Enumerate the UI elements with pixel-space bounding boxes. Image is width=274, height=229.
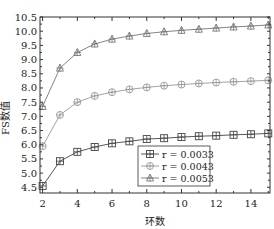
y-tick-label: 9.5: [21, 40, 37, 51]
y-tick-label: 7.5: [21, 97, 37, 108]
x-tick-label: 6: [109, 198, 115, 209]
x-axis-label: 环数: [145, 215, 165, 227]
legend-item: r = 0.0033: [141, 149, 214, 160]
y-tick-label: 5.5: [21, 153, 37, 164]
y-tick-label: 7.0: [21, 111, 37, 122]
y-tick-label: 9.0: [21, 54, 37, 65]
line-chart: 4.55.05.56.06.57.07.58.08.59.09.510.010.…: [0, 0, 274, 229]
legend-label: r = 0.0033: [162, 149, 214, 160]
legend-label: r = 0.0053: [162, 173, 214, 184]
x-tick-label: 14: [245, 198, 258, 209]
y-tick-label: 10.0: [15, 26, 37, 37]
y-tick-label: 5.0: [21, 168, 37, 179]
y-tick-label: 6.5: [21, 125, 37, 136]
legend: r = 0.0033r = 0.0043r = 0.0053: [138, 146, 214, 186]
x-tick-label: 10: [175, 198, 188, 209]
x-tick-label: 8: [144, 198, 150, 209]
y-tick-label: 4.5: [21, 182, 37, 193]
x-tick-label: 12: [210, 198, 223, 209]
y-tick-label: 8.0: [21, 82, 37, 93]
x-tick-label: 4: [74, 198, 80, 209]
x-tick-label: 2: [39, 198, 45, 209]
y-tick-label: 6.0: [21, 139, 37, 150]
y-tick-label: 8.5: [21, 68, 37, 79]
y-axis-label: FS数值: [0, 101, 11, 135]
y-tick-label: 10.5: [15, 12, 37, 23]
series-triangle: [39, 21, 272, 110]
legend-label: r = 0.0043: [162, 161, 214, 172]
